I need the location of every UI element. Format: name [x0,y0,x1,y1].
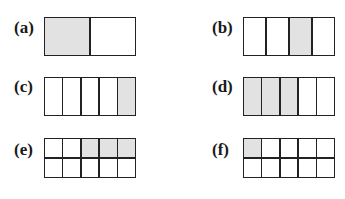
empty-cell [317,139,334,157]
empty-cell [317,159,334,177]
empty-cell [267,18,288,55]
shaded-cell [82,139,99,157]
empty-cell [299,78,316,115]
figure-f-grid [243,138,335,178]
shaded-cell [118,139,135,157]
figure-f-label: (f) [212,141,229,158]
shaded-cell [290,18,311,55]
figure-e-label: (e) [14,141,33,158]
figure-e-grid [44,138,136,178]
empty-cell [299,139,316,157]
figure-a-label: (a) [14,19,34,36]
empty-cell [45,139,62,157]
empty-cell [317,78,334,115]
figure-d-label: (d) [212,78,233,95]
empty-cell [262,159,279,177]
shaded-cell [244,139,261,157]
empty-cell [82,159,99,177]
empty-cell [63,78,80,115]
shaded-cell [244,78,261,115]
empty-cell [91,18,135,55]
figure-d-grid [243,77,335,116]
empty-cell [244,18,265,55]
shaded-cell [118,78,135,115]
empty-cell [299,159,316,177]
empty-cell [281,159,298,177]
figure-a-grid [44,17,136,56]
empty-cell [100,159,117,177]
empty-cell [45,78,62,115]
shaded-cell [45,18,89,55]
empty-cell [63,159,80,177]
empty-cell [63,139,80,157]
empty-cell [118,159,135,177]
figure-c-label: (c) [14,78,33,95]
empty-cell [281,139,298,157]
empty-cell [262,139,279,157]
empty-cell [100,78,117,115]
shaded-cell [100,139,117,157]
figure-c-grid [44,77,136,116]
shaded-cell [262,78,279,115]
empty-cell [82,78,99,115]
empty-cell [244,159,261,177]
empty-cell [45,159,62,177]
figure-b-label: (b) [212,19,233,36]
empty-cell [313,18,334,55]
figure-b-grid [243,17,335,56]
shaded-cell [281,78,298,115]
